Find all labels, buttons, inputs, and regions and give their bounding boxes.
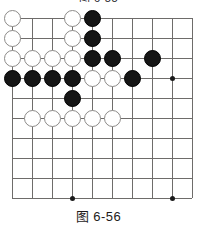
white-stone[interactable]: [24, 110, 41, 127]
grid-line-vertical: [132, 18, 133, 198]
grid-line-vertical: [52, 18, 53, 198]
black-stone[interactable]: [104, 50, 121, 67]
star-point: [70, 196, 75, 201]
figure-caption-bottom: 图 6-56: [0, 206, 197, 225]
white-stone[interactable]: [64, 10, 81, 27]
go-board: [0, 8, 197, 200]
black-stone[interactable]: [84, 10, 101, 27]
grid-line-horizontal: [12, 178, 192, 179]
grid-line-vertical: [112, 18, 113, 198]
star-point: [170, 196, 175, 201]
black-stone[interactable]: [24, 70, 41, 87]
white-stone[interactable]: [4, 50, 21, 67]
figure-caption-top: 图 6-55: [0, 0, 197, 2]
grid-line-horizontal: [12, 198, 192, 199]
white-stone[interactable]: [104, 70, 121, 87]
white-stone[interactable]: [44, 50, 61, 67]
black-stone[interactable]: [84, 30, 101, 47]
white-stone[interactable]: [4, 30, 21, 47]
figure-container: 图 6-55 图 6-56: [0, 0, 197, 229]
grid-line-horizontal: [12, 138, 192, 139]
grid-line-horizontal: [12, 38, 192, 39]
white-stone[interactable]: [104, 110, 121, 127]
grid-line-vertical: [152, 18, 153, 198]
black-stone[interactable]: [124, 70, 141, 87]
white-stone[interactable]: [64, 30, 81, 47]
star-point: [170, 76, 175, 81]
white-stone[interactable]: [64, 50, 81, 67]
white-stone[interactable]: [4, 10, 21, 27]
grid-line-horizontal: [12, 98, 192, 99]
grid-line-vertical: [192, 18, 193, 198]
white-stone[interactable]: [24, 50, 41, 67]
white-stone[interactable]: [44, 110, 61, 127]
black-stone[interactable]: [44, 70, 61, 87]
grid-line-vertical: [32, 18, 33, 198]
black-stone[interactable]: [64, 90, 81, 107]
black-stone[interactable]: [64, 70, 81, 87]
grid-line-horizontal: [12, 158, 192, 159]
white-stone[interactable]: [64, 110, 81, 127]
white-stone[interactable]: [84, 70, 101, 87]
black-stone[interactable]: [144, 50, 161, 67]
black-stone[interactable]: [4, 70, 21, 87]
grid-line-vertical: [172, 18, 173, 198]
grid-line-horizontal: [12, 18, 192, 19]
white-stone[interactable]: [84, 110, 101, 127]
black-stone[interactable]: [84, 50, 101, 67]
